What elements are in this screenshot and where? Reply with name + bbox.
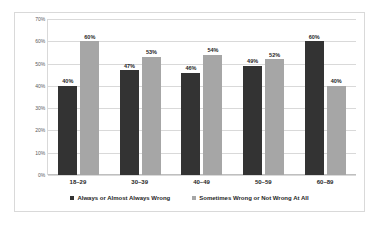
y-axis: 0%10%20%30%40%50%60%70% <box>21 19 45 175</box>
bar-value-label: 53% <box>146 49 157 55</box>
bar-holder: 47% <box>120 19 139 175</box>
bar-holder: 49% <box>243 19 262 175</box>
bar-holder: 53% <box>142 19 161 175</box>
bar-value-label: 40% <box>331 78 342 84</box>
x-axis-tick-label: 30–39 <box>109 179 171 191</box>
bar[interactable] <box>327 86 346 175</box>
bar-group: 49%52% <box>233 19 295 175</box>
bar[interactable] <box>181 73 200 176</box>
legend-swatch-icon <box>70 196 74 200</box>
legend-label: Sometimes Wrong or Not Wrong At All <box>199 195 308 201</box>
bar-holder: 60% <box>305 19 324 175</box>
x-axis: 18–2930–3940–4950–5960–89 <box>47 179 356 191</box>
legend-item[interactable]: Always or Almost Always Wrong <box>70 195 170 201</box>
bar-holder: 40% <box>327 19 346 175</box>
x-axis-tick-label: 18–29 <box>47 179 109 191</box>
bar-holder: 54% <box>203 19 222 175</box>
legend-item[interactable]: Sometimes Wrong or Not Wrong At All <box>192 195 308 201</box>
bar[interactable] <box>305 41 324 175</box>
bar-value-label: 54% <box>207 47 218 53</box>
y-axis-tick-label: 10% <box>35 150 45 156</box>
bar[interactable] <box>80 41 99 175</box>
gridline <box>48 175 356 176</box>
y-axis-tick-label: 20% <box>35 127 45 133</box>
bar[interactable] <box>142 57 161 175</box>
bar-group: 46%54% <box>171 19 233 175</box>
bar-value-label: 49% <box>247 58 258 64</box>
y-axis-tick-label: 0% <box>38 172 45 178</box>
bar-value-label: 47% <box>124 63 135 69</box>
bar-value-label: 60% <box>84 34 95 40</box>
bar[interactable] <box>243 66 262 175</box>
y-axis-tick-label: 40% <box>35 83 45 89</box>
bar-holder: 46% <box>181 19 200 175</box>
y-axis-tick-label: 70% <box>35 16 45 22</box>
x-axis-tick-label: 60–89 <box>294 179 356 191</box>
bar-holder: 40% <box>58 19 77 175</box>
legend-label: Always or Almost Always Wrong <box>77 195 170 201</box>
chart-legend: Always or Almost Always WrongSometimes W… <box>15 195 364 201</box>
bar-groups: 40%60%47%53%46%54%49%52%60%40% <box>48 19 356 175</box>
plot-area: 40%60%47%53%46%54%49%52%60%40% <box>47 19 356 175</box>
chart-container: 0%10%20%30%40%50%60%70% 40%60%47%53%46%5… <box>14 12 365 212</box>
y-axis-tick-label: 30% <box>35 105 45 111</box>
legend-swatch-icon <box>192 196 196 200</box>
bar-value-label: 40% <box>62 78 73 84</box>
bar-value-label: 52% <box>269 52 280 58</box>
bar[interactable] <box>120 70 139 175</box>
bar[interactable] <box>203 55 222 175</box>
bar-group: 47%53% <box>110 19 172 175</box>
bar[interactable] <box>58 86 77 175</box>
x-axis-tick-label: 50–59 <box>232 179 294 191</box>
y-axis-tick-label: 60% <box>35 38 45 44</box>
chart-plot-wrapper: 0%10%20%30%40%50%60%70% 40%60%47%53%46%5… <box>15 13 364 211</box>
bar-value-label: 60% <box>309 34 320 40</box>
y-axis-tick-label: 50% <box>35 61 45 67</box>
x-axis-tick-label: 40–49 <box>171 179 233 191</box>
bar-group: 60%40% <box>294 19 356 175</box>
bar[interactable] <box>265 59 284 175</box>
bar-holder: 60% <box>80 19 99 175</box>
bar-value-label: 46% <box>185 65 196 71</box>
bar-group: 40%60% <box>48 19 110 175</box>
bar-holder: 52% <box>265 19 284 175</box>
